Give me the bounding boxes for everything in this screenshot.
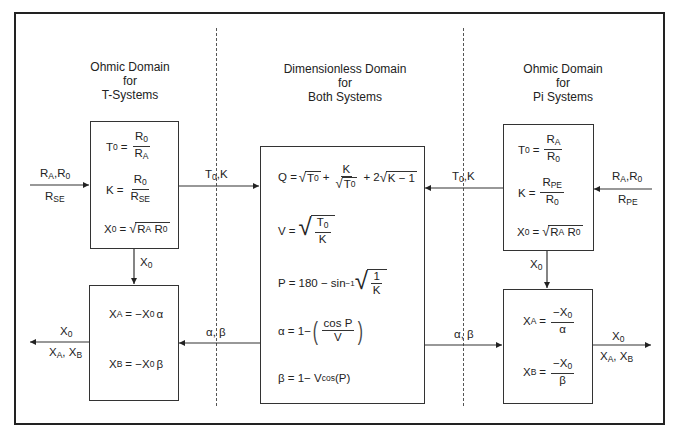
equation-xa: XA = −X0 α — [109, 308, 163, 320]
lbl-b: R — [57, 167, 65, 179]
fraction: −X0 α — [551, 306, 574, 336]
sqrt-arg: T0 — [305, 171, 321, 184]
lbl-a-sub: SE — [53, 194, 64, 204]
eq-lhs: T — [518, 144, 525, 156]
num-sub: 0 — [324, 220, 329, 230]
fraction: T0 K — [315, 216, 331, 246]
t-system-dimensionless-to-ohmic-box: XA = −X0 α XB = −X0 β — [89, 285, 179, 401]
eq-sub: A — [531, 316, 537, 326]
equation-xb: XB = −X0 β — [523, 357, 576, 387]
numerator: R0 — [132, 173, 149, 190]
lbl-a-sub: 0 — [620, 334, 625, 344]
fraction: RA R0 — [544, 133, 562, 166]
denominator: R0 — [544, 193, 561, 209]
eq-sub: 0 — [112, 224, 117, 234]
eq-sub: A — [117, 309, 123, 319]
equation-xa: XA = −X0 α — [523, 306, 576, 336]
equation-t0: T0 = R0 RA — [106, 130, 152, 163]
fraction: cos P V — [322, 317, 355, 344]
lbl-tail: ,K — [464, 170, 475, 182]
sqrt: √ T0 K — [299, 215, 335, 246]
denominator: √T0 — [333, 177, 359, 191]
sqrt-arg: T0 — [342, 177, 358, 191]
eq-rhs: = −X — [125, 308, 149, 320]
eq-lhs: β = 1− V — [278, 372, 322, 384]
num-text: T — [317, 216, 324, 228]
dimensionless-domain-box: Q = √T0 + K √T0 + 2 √K − 1 V = √ T0 K P … — [260, 146, 425, 404]
denominator: α — [557, 323, 568, 336]
numerator: −X0 — [551, 357, 574, 374]
sqrt-arg: 1 K — [367, 269, 387, 297]
lbl-a: X — [600, 350, 608, 362]
numerator: RA — [544, 133, 562, 150]
lbl-a: X — [49, 346, 57, 358]
fraction: R0 RA — [132, 130, 150, 163]
eq-lhs: X — [104, 223, 112, 235]
eq-rhs-sub: 0 — [150, 359, 155, 369]
label-right-output-bottom: XA, XB — [600, 350, 633, 364]
sqrt-arg: K − 1 — [386, 171, 417, 184]
lbl-a: T — [452, 170, 459, 182]
denominator: R0 — [545, 150, 562, 166]
equation-x0: X0 = √RA R0 — [517, 225, 583, 238]
eq-tail: (P) — [335, 372, 350, 384]
equation-k: K = RPE R0 — [518, 176, 566, 209]
equation-p: P = 180 − sin−1 √ 1 K — [278, 269, 387, 297]
lbl-a: X — [612, 330, 620, 342]
eq-lhs: K — [106, 184, 114, 196]
lbl-b-sub: 0 — [638, 174, 643, 184]
den-text: R — [130, 190, 138, 202]
eq-sup: −1 — [346, 279, 355, 288]
eq-equals: = — [539, 315, 546, 327]
lbl-b-sub: B — [627, 354, 633, 364]
label-right-to-center: T0,K — [452, 170, 475, 184]
numerator: K — [341, 163, 353, 177]
eq-lhs: X — [523, 366, 531, 378]
eq-sub: B — [117, 359, 123, 369]
fraction: 1 K — [371, 270, 383, 297]
label-right-down: X0 — [530, 258, 542, 272]
equation-beta: β = 1− Vcos(P) — [278, 372, 350, 384]
equation-v: V = √ T0 K — [278, 215, 335, 246]
lbl-a-sub: 0 — [148, 260, 153, 270]
equation-t0: T0 = RA R0 — [518, 133, 564, 166]
sqrt: √T0 — [299, 171, 321, 184]
numerator: R0 — [133, 130, 150, 147]
label-right-output-top: X0 — [612, 330, 624, 344]
label-left-input-top: RA,R0 — [40, 167, 70, 181]
lbl-a-sub: PE — [626, 197, 637, 207]
sqrt-arg: RA R0 — [548, 225, 582, 238]
numerator: RPE — [540, 176, 564, 193]
denominator: K — [317, 233, 329, 246]
num-sub: 0 — [567, 310, 572, 320]
sqrt: √ 1 K — [355, 269, 387, 297]
label-left-input-bottom: RSE — [45, 190, 65, 204]
equation-xb: XB = −X0 β — [109, 358, 163, 370]
den-sub: 0 — [555, 154, 560, 164]
eq-lhs: Q = — [278, 171, 297, 183]
denominator: K — [371, 284, 383, 297]
num-text: −X — [553, 357, 567, 369]
fraction: K √T0 — [333, 163, 359, 191]
paren-open: ( — [313, 318, 318, 344]
num-text: R — [542, 176, 550, 188]
lbl-b-sub: 0 — [66, 171, 71, 181]
eq-equals: = — [121, 141, 128, 153]
num-sub: PE — [551, 180, 562, 190]
fraction: −X0 β — [551, 357, 574, 387]
sqrt-arg: T0 K — [311, 215, 335, 246]
eq-equals: = — [529, 187, 536, 199]
lbl-b: R — [629, 170, 637, 182]
arg-sub: 0 — [314, 173, 319, 183]
pi-system-ohmic-to-dimensionless-box: T0 = RA R0 K = RPE R0 X0 = √RA R0 — [503, 124, 594, 251]
eq-sub: cos — [322, 373, 335, 383]
eq-equals: = — [117, 184, 124, 196]
num-sub: 0 — [567, 361, 572, 371]
denominator: RA — [132, 147, 150, 163]
eq-lhs: X — [523, 315, 531, 327]
arg: T — [307, 172, 314, 184]
denominator: β — [557, 374, 568, 387]
eq-tail: + 2 — [363, 171, 379, 183]
lbl-b-sub: B — [76, 350, 82, 360]
lbl-a: X — [60, 325, 68, 337]
